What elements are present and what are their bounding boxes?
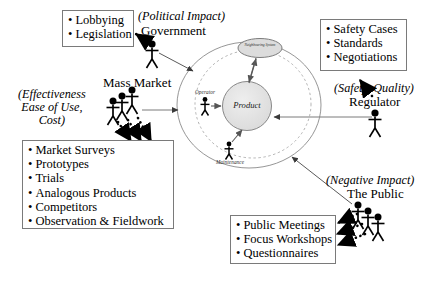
list-item: Standards: [326, 36, 402, 50]
mass-market-note-line-2: Ease of Use,: [18, 101, 86, 114]
government-methods-box: Lobbying Legislation: [62, 10, 134, 47]
list-item: Trials: [28, 171, 169, 185]
list-item: Legislation: [68, 27, 129, 41]
operator-figure: [201, 97, 210, 115]
list-item: Safety Cases: [326, 22, 402, 36]
mass-market-note-line-1: (Effectiveness: [18, 88, 86, 101]
government-to-system-arrow: [159, 53, 193, 71]
mass-market-methods-box: Market Surveys Prototypes Trials Analogo…: [22, 140, 174, 229]
mass-market-label: Mass Market: [103, 76, 171, 90]
the-public-note: (Negative Impact): [326, 174, 414, 187]
diagram-canvas: Lobbying Legislation (Political Impact) …: [0, 0, 448, 286]
neighbouring-system-ellipse: [238, 39, 282, 58]
mass-market-figures: [107, 87, 139, 126]
mass-market-dotted-arrow-1: [118, 122, 131, 141]
maintenance-figure: [225, 142, 234, 160]
the-public-label: The Public: [347, 187, 404, 201]
regulator-methods-box: Safety Cases Standards Negotiations: [320, 19, 407, 71]
the-public-dotted-arrow-3: [338, 234, 365, 245]
government-label: Government: [141, 24, 206, 38]
maintenance-label: Maintenance: [212, 160, 248, 166]
the-public-figures: [352, 202, 385, 242]
list-item: Public Meetings: [236, 218, 331, 232]
the-public-dotted-arrow-1: [338, 214, 357, 223]
list-item: Competitors: [28, 200, 169, 214]
list-item: Negotiations: [326, 50, 402, 64]
the-public-dotted-arrow-2: [337, 224, 362, 234]
list-item: Market Surveys: [28, 143, 169, 157]
list-item: Prototypes: [28, 157, 169, 171]
maintenance-to-product-arrow: [232, 130, 242, 142]
product-label: Product: [227, 101, 267, 110]
regulator-label: Regulator: [349, 95, 400, 109]
neighbouring-system-label-text: Neighbouring System: [245, 43, 276, 47]
list-item: Questionnaires: [236, 246, 331, 260]
operator-label: Operator: [190, 90, 220, 96]
list-item: Lobbying: [68, 13, 129, 27]
government-note: (Political Impact): [138, 10, 225, 23]
list-item: Focus Workshops: [236, 232, 331, 246]
regulator-note: (Safety, Quality): [334, 82, 414, 95]
neighbour-to-product-arrow: [249, 58, 256, 82]
neighbouring-system-label: Neighbouring System: [242, 43, 278, 47]
mass-market-note-line-3: Cost): [18, 114, 86, 127]
regulator-figure: [369, 109, 382, 137]
mass-market-dotted-arrow-3: [138, 118, 151, 141]
list-item: Observation & Fieldwork: [28, 214, 169, 228]
mass-market-note: (Effectiveness Ease of Use, Cost): [18, 88, 86, 127]
government-figure: [146, 40, 159, 68]
the-public-methods-box: Public Meetings Focus Workshops Question…: [230, 215, 336, 264]
list-item: Analogous Products: [28, 186, 169, 200]
